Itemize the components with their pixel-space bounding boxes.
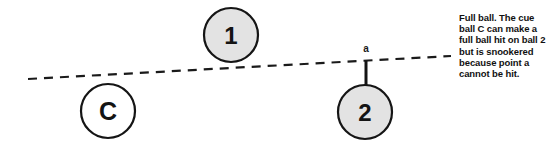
ball-cue: C xyxy=(81,84,135,138)
ball-two-label: 2 xyxy=(358,99,371,126)
ball-cue-label: C xyxy=(99,97,117,125)
diagram-caption: Full ball. The cue ball C can make a ful… xyxy=(459,12,547,79)
ball-one: 1 xyxy=(204,8,258,62)
ball-two: 2 xyxy=(338,85,392,139)
ball-one-label: 1 xyxy=(224,22,237,49)
diagram-canvas: a 1 C 2 Full ball. The cue ball C can ma… xyxy=(0,0,549,149)
point-a-label: a xyxy=(363,43,369,54)
